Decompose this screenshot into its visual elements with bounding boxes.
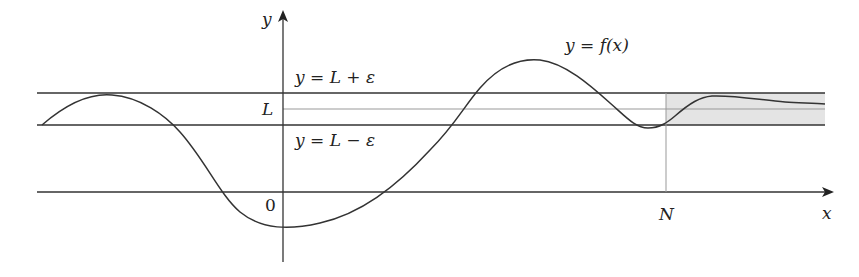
n-label: N bbox=[658, 204, 675, 224]
limit-at-infinity-diagram: y x y = L + ε y = L − ε L 0 N y = f(x) bbox=[0, 0, 859, 277]
origin-label: 0 bbox=[265, 195, 276, 215]
curve-label: y = f(x) bbox=[564, 35, 629, 55]
lower-band-label: y = L − ε bbox=[294, 130, 375, 150]
limit-label: L bbox=[261, 99, 273, 119]
function-curve bbox=[42, 60, 825, 228]
y-axis-label: y bbox=[261, 9, 272, 29]
upper-band-label: y = L + ε bbox=[294, 67, 375, 87]
x-axis-label: x bbox=[822, 203, 832, 223]
